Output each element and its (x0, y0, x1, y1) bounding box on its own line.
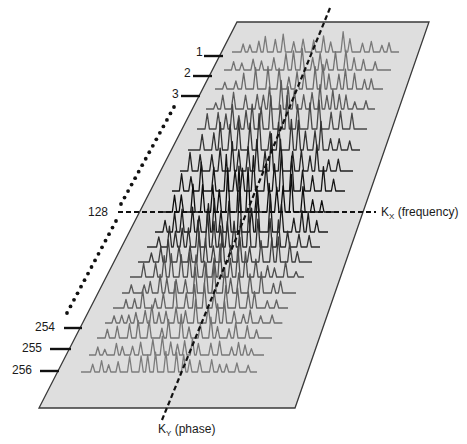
row-label-1: 1 (196, 45, 203, 59)
row-label-2: 2 (184, 66, 191, 80)
ky-phase-label: KY (phase) (158, 422, 215, 438)
ellipsis-dot (140, 163, 144, 167)
ellipsis-dot (165, 118, 169, 122)
ellipsis-dot (90, 265, 94, 269)
ellipsis-dot (97, 252, 101, 256)
ellipsis-dot (169, 112, 173, 116)
row-label-256: 256 (12, 363, 32, 377)
ellipsis-dot (114, 219, 118, 223)
ellipsis-dot (104, 239, 108, 243)
ellipsis-dot (154, 137, 158, 141)
row-label-3: 3 (172, 87, 179, 101)
ellipsis-dot (130, 183, 134, 187)
ellipsis-dot (76, 291, 80, 295)
ellipsis-dot (137, 170, 141, 174)
ellipsis-dot (123, 196, 127, 200)
ellipsis-dot (111, 226, 115, 230)
kx-frequency-label: KX (frequency) (381, 205, 458, 221)
ellipsis-dot (107, 232, 111, 236)
ellipsis-dot (144, 157, 148, 161)
ellipsis-dot (93, 259, 97, 263)
ellipsis-dot (69, 305, 73, 309)
ellipsis-dot (72, 298, 76, 302)
ellipsis-dot (151, 144, 155, 148)
ellipsis-dot (158, 131, 162, 135)
ellipsis-dot (172, 105, 176, 109)
ellipsis-dot (147, 150, 151, 154)
k-space-figure: 123128254255256 KX (frequency) KY (phase… (0, 0, 467, 444)
ellipsis-dot (65, 311, 69, 315)
ellipsis-dot (83, 278, 87, 282)
ellipsis-dot (86, 272, 90, 276)
ellipsis-dot (119, 202, 123, 206)
ellipsis-dot (133, 176, 137, 180)
row-label-255: 255 (22, 341, 42, 355)
ellipsis-dot (126, 189, 130, 193)
ellipsis-dot (79, 285, 83, 289)
row-label-254: 254 (35, 320, 55, 334)
ellipsis-dot (100, 245, 104, 249)
ellipsis-dot (162, 125, 166, 129)
row-label-128: 128 (88, 205, 108, 219)
